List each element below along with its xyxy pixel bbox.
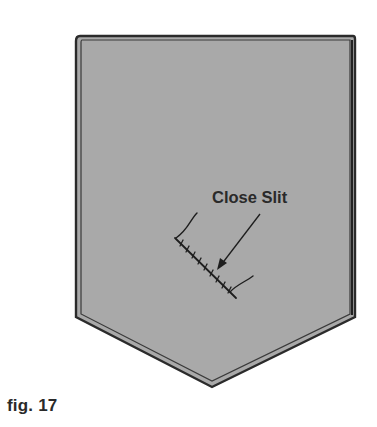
pocket-shape xyxy=(76,36,355,387)
pocket-diagram: Close Slit xyxy=(0,0,377,427)
figure-caption: fig. 17 xyxy=(7,396,58,416)
annotation-label: Close Slit xyxy=(212,188,288,206)
